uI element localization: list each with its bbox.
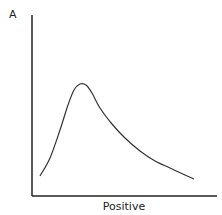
x-axis-label: Positive: [0, 200, 222, 213]
curve-line: [40, 84, 194, 179]
chart-plot: [0, 0, 222, 215]
